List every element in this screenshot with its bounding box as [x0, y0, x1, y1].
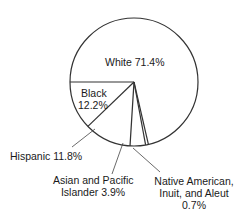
label-asian: Asian and Pacific Islander 3.9% — [53, 174, 133, 198]
label-white: White 71.4% — [105, 56, 165, 68]
label-asian-line2: Islander 3.9% — [53, 186, 133, 198]
label-hispanic: Hispanic 11.8% — [10, 150, 82, 162]
label-black-value: 12.2% — [78, 99, 108, 111]
label-native-line2: Inuit, and Aleut — [152, 187, 236, 199]
label-native-line3: 0.7% — [152, 199, 236, 211]
label-black: Black 12.2% — [78, 87, 108, 111]
label-native: Native American, Inuit, and Aleut 0.7% — [152, 175, 236, 211]
label-black-name: Black — [78, 87, 108, 99]
label-asian-line1: Asian and Pacific — [53, 174, 133, 186]
label-native-line1: Native American, — [152, 175, 236, 187]
